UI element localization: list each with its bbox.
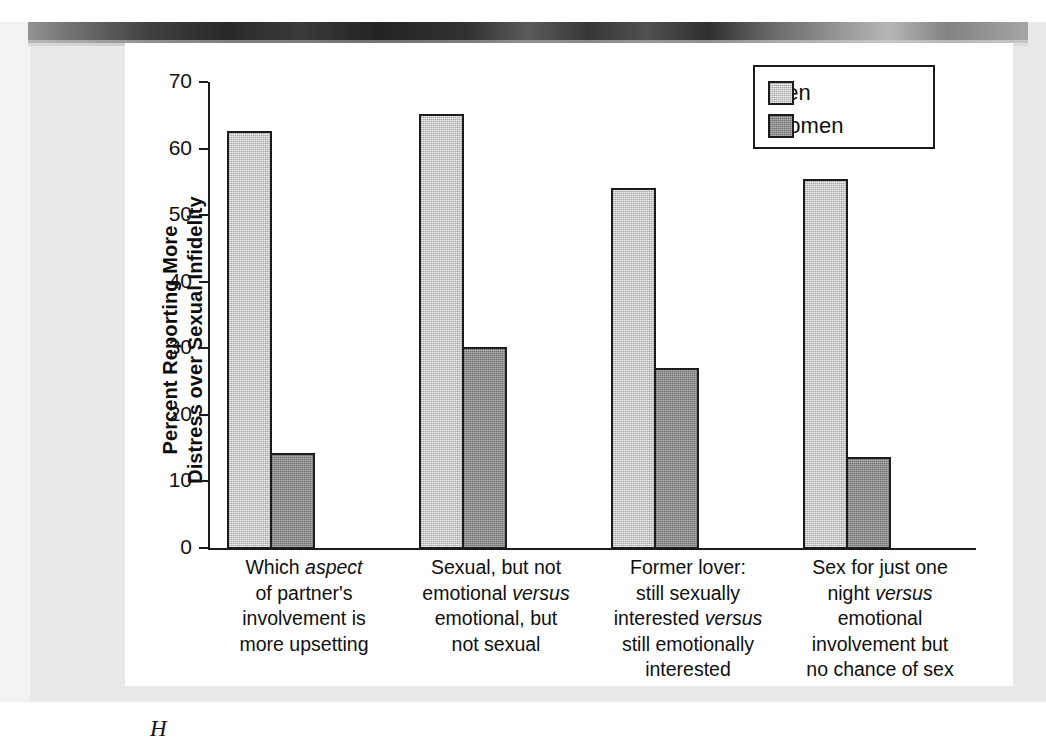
emphasis-text: versus — [512, 582, 569, 604]
plain-text: emotional — [422, 582, 512, 604]
x-category-label-line: involvement but — [784, 632, 976, 658]
x-category-label-line: involvement is — [208, 606, 400, 632]
plain-text: emotional, but — [435, 607, 558, 629]
bar-men — [419, 114, 464, 549]
x-category-label-line: not sexual — [400, 632, 592, 658]
bar-women — [462, 347, 507, 549]
x-category-label: Which aspectof partner'sinvolvement ismo… — [208, 555, 400, 657]
x-category-label-line: still sexually — [592, 581, 784, 607]
x-category-label-line: no chance of sex — [784, 657, 976, 683]
x-category-label-line: emotional, but — [400, 606, 592, 632]
x-category-label-line: Sexual, but not — [400, 555, 592, 581]
legend-item-women: Women — [768, 109, 933, 142]
plain-text: Which — [245, 556, 305, 578]
bar-chart-plot: Percent Reporting MoreDistress over Sexu… — [125, 43, 1013, 686]
plain-text: of partner's — [256, 582, 353, 604]
bar-men — [803, 179, 848, 549]
x-category-label-line: more upsetting — [208, 632, 400, 658]
chart-legend: Men Women — [753, 65, 935, 149]
plain-text: still emotionally — [622, 633, 754, 655]
emphasis-text: versus — [705, 607, 762, 629]
x-category-label: Former lover:still sexuallyinterested ve… — [592, 555, 784, 683]
plain-text: night — [827, 582, 875, 604]
legend-swatch-men — [768, 81, 794, 105]
legend-item-men: Men — [768, 76, 933, 109]
figure-caption-fragment: H — [150, 716, 210, 737]
x-category-label-line: interested versus — [592, 606, 784, 632]
x-category-label-line: emotional — [784, 606, 976, 632]
plain-text: more upsetting — [240, 633, 369, 655]
x-category-label-line: interested — [592, 657, 784, 683]
figure-panel: Percent Reporting MoreDistress over Sexu… — [125, 43, 1013, 686]
figure-page: H Percent Reporting MoreDistress over Se… — [0, 0, 1046, 737]
plain-text: interested — [614, 607, 705, 629]
plain-text: involvement but — [812, 633, 949, 655]
x-category-label: Sexual, but notemotional versusemotional… — [400, 555, 592, 657]
plain-text: not sexual — [452, 633, 541, 655]
plain-text: emotional — [838, 607, 923, 629]
x-category-label-line: night versus — [784, 581, 976, 607]
bar-men — [611, 188, 656, 549]
bar-women — [846, 457, 891, 549]
scan-left-margin — [0, 22, 30, 712]
plain-text: interested — [645, 658, 731, 680]
x-axis-category-labels: Which aspectof partner'sinvolvement ismo… — [208, 555, 976, 685]
plain-text: Former lover: — [630, 556, 746, 578]
x-category-label-line: still emotionally — [592, 632, 784, 658]
plain-text: still sexually — [636, 582, 740, 604]
emphasis-text: versus — [875, 582, 932, 604]
x-category-label-line: Former lover: — [592, 555, 784, 581]
bar-women — [270, 453, 315, 549]
x-category-label-line: emotional versus — [400, 581, 592, 607]
x-category-label-line: of partner's — [208, 581, 400, 607]
x-category-label-line: Which aspect — [208, 555, 400, 581]
bar-women — [654, 368, 699, 549]
plain-text: involvement is — [242, 607, 366, 629]
plain-text: no chance of sex — [806, 658, 953, 680]
plain-text: Sex for just one — [812, 556, 948, 578]
legend-swatch-women — [768, 114, 794, 138]
bar-men — [227, 131, 272, 549]
x-category-label-line: Sex for just one — [784, 555, 976, 581]
x-category-label: Sex for just onenight versusemotionalinv… — [784, 555, 976, 683]
emphasis-text: aspect — [305, 556, 362, 578]
plain-text: Sexual, but not — [431, 556, 561, 578]
